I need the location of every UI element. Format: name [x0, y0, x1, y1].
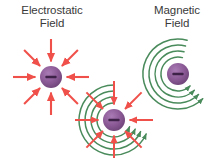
figure-canvas: Electrostatic Field Magnetic Field — [0, 0, 215, 158]
negative-charge — [103, 109, 125, 131]
minus-sign-icon — [108, 119, 119, 122]
minus-sign-icon — [172, 73, 183, 76]
negative-charge — [40, 66, 62, 88]
field-arrow-sw — [24, 88, 40, 104]
negative-charge — [167, 63, 189, 85]
magnetic-field-svg — [139, 35, 215, 113]
magnetic-field-diagram — [139, 35, 215, 113]
minus-sign-icon — [45, 76, 56, 79]
magnetic-field-label: Magnetic Field — [140, 4, 214, 29]
field-arrow-ne — [62, 50, 78, 66]
electrostatic-field-label: Electrostatic Field — [4, 4, 100, 29]
field-arrow-nw — [24, 50, 40, 66]
